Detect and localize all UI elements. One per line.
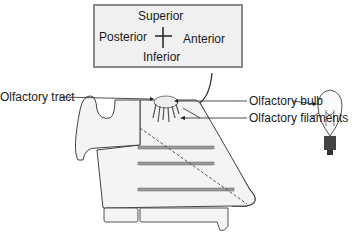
olfactory-tract-label: Olfactory tract (0, 91, 75, 103)
compass-cross-icon (155, 27, 172, 48)
turbinate-bar-3 (138, 188, 234, 191)
turbinate-bar-1 (138, 146, 214, 149)
olfactory-bulb-label: Olfactory bulb (249, 95, 323, 107)
turbinate-bar-2 (138, 162, 214, 165)
lower-block-left (104, 208, 138, 222)
olfactory-filaments-label: Olfactory filaments (249, 112, 348, 124)
olfactory-diagram: Superior Posterior Anterior Inferior (0, 0, 354, 245)
lower-block-right (140, 208, 228, 231)
